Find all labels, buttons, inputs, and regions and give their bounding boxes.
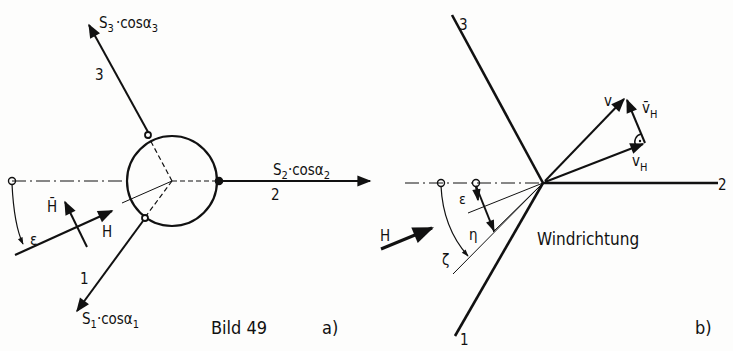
label-v: v xyxy=(604,92,612,110)
line-3 xyxy=(452,15,543,183)
line-label-2: 2 xyxy=(718,176,727,194)
index-label-1: 1 xyxy=(80,270,89,288)
panel-a: S3·cosα3 3 S2·cosα2 2 S1·cosα1 1 H̄ H ε … xyxy=(9,14,371,338)
epsilon-arc-a xyxy=(12,184,23,244)
wind-direction-label: Windrichtung xyxy=(537,229,639,249)
v-h-vector xyxy=(545,144,643,182)
node-3 xyxy=(145,132,151,138)
right-angle-dot xyxy=(639,140,641,142)
label-eta: η xyxy=(469,226,478,244)
label-zeta: ζ xyxy=(442,251,449,269)
line-label-3: 3 xyxy=(459,16,468,34)
label-s2: S2·cosα2 xyxy=(273,161,330,182)
panel-b: 3 2 1 v v̄H vH ε η ζ H Windrichtung b) xyxy=(380,15,727,349)
panel-a-tag: a) xyxy=(322,317,338,338)
index-label-3: 3 xyxy=(95,66,104,84)
spoke-dashed-3 xyxy=(148,136,172,181)
v-vector xyxy=(545,99,624,181)
ray-epsilon xyxy=(468,183,543,213)
label-v-h-bar: v̄H xyxy=(642,99,657,121)
label-s1: S1·cosα1 xyxy=(82,310,139,331)
label-v-h: vH xyxy=(632,152,647,174)
diagram-svg: S3·cosα3 3 S2·cosα2 2 S1·cosα1 1 H̄ H ε … xyxy=(0,0,733,351)
label-h: H xyxy=(102,223,112,241)
label-h-bar: H̄ xyxy=(47,197,57,216)
node-2 xyxy=(216,178,223,185)
label-s3: S3·cosα3 xyxy=(99,14,158,35)
label-epsilon-b: ε xyxy=(459,191,466,207)
node-1 xyxy=(142,215,148,221)
line-1 xyxy=(455,183,543,336)
label-epsilon-a: ε xyxy=(30,231,37,249)
index-label-2: 2 xyxy=(271,186,280,204)
figure-caption: Bild 49 xyxy=(211,317,267,338)
line-label-1: 1 xyxy=(460,331,469,349)
figure-canvas: S3·cosα3 3 S2·cosα2 2 S1·cosα1 1 H̄ H ε … xyxy=(0,0,733,351)
panel-b-tag: b) xyxy=(695,317,712,338)
label-h-wind: H xyxy=(380,227,390,245)
